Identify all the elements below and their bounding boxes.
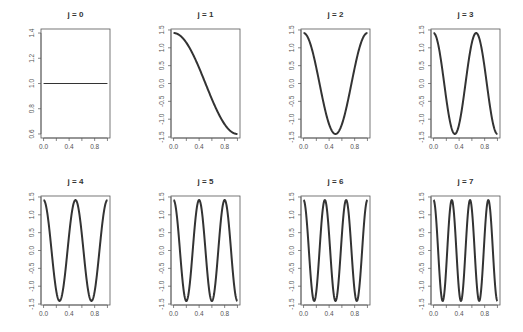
y-tick-label: 1.0 xyxy=(288,43,295,52)
x-tick-label: 0.4 xyxy=(65,143,74,150)
y-tick-label: -1.0 xyxy=(158,280,165,292)
y-tick-label: 1.0 xyxy=(418,210,425,219)
y-tick-label: -1.5 xyxy=(28,298,35,310)
x-tick-label: 0.8 xyxy=(220,143,229,150)
y-axis: -1.5-1.0-0.50.00.51.01.5 xyxy=(418,25,431,143)
basis-curve xyxy=(434,200,498,301)
y-axis: -1.5-1.0-0.50.00.51.01.5 xyxy=(418,192,431,310)
x-axis: 0.00.40.8 xyxy=(39,138,107,150)
cosine-basis-figure: j = 00.00.40.80.60.81.01.21.4j = 10.00.4… xyxy=(0,0,523,332)
y-tick-label: 0.5 xyxy=(288,228,295,237)
panel-title: j = 2 xyxy=(327,10,344,19)
x-axis: 0.00.40.8 xyxy=(299,305,367,317)
x-tick-label: 0.0 xyxy=(39,143,48,150)
x-tick-label: 0.4 xyxy=(455,310,464,317)
panel-title: j = 5 xyxy=(197,177,214,186)
panel-title: j = 0 xyxy=(67,10,84,19)
plot-panel-j6: j = 60.00.40.8-1.5-1.0-0.50.00.51.01.5 xyxy=(288,177,370,317)
panel-title: j = 7 xyxy=(457,177,474,186)
y-tick-label: -1.0 xyxy=(418,113,425,125)
y-tick-label: -1.5 xyxy=(288,131,295,143)
x-tick-label: 0.4 xyxy=(325,143,334,150)
x-axis: 0.00.40.8 xyxy=(429,138,497,150)
plot-panel-j5: j = 50.00.40.8-1.5-1.0-0.50.00.51.01.5 xyxy=(158,177,240,317)
y-tick-label: -0.5 xyxy=(288,262,295,274)
y-tick-label: 1.0 xyxy=(158,43,165,52)
x-tick-label: 0.0 xyxy=(39,310,48,317)
y-tick-label: 0.0 xyxy=(158,79,165,88)
y-tick-label: 0.5 xyxy=(418,61,425,70)
y-tick-label: -1.0 xyxy=(28,280,35,292)
x-tick-label: 0.4 xyxy=(325,310,334,317)
x-tick-label: 0.4 xyxy=(65,310,74,317)
panel-title: j = 6 xyxy=(327,177,344,186)
y-tick-label: 0.0 xyxy=(418,246,425,255)
x-tick-label: 0.8 xyxy=(90,143,99,150)
x-axis: 0.00.40.8 xyxy=(429,305,497,317)
y-axis: -1.5-1.0-0.50.00.51.01.5 xyxy=(288,25,301,143)
x-tick-label: 0.8 xyxy=(220,310,229,317)
y-tick-label: -0.5 xyxy=(28,262,35,274)
x-tick-label: 0.0 xyxy=(429,143,438,150)
x-tick-label: 0.0 xyxy=(299,143,308,150)
basis-curve xyxy=(174,33,238,134)
y-tick-label: -1.5 xyxy=(418,131,425,143)
y-tick-label: -1.5 xyxy=(158,298,165,310)
y-tick-label: 1.5 xyxy=(418,192,425,201)
plot-panel-j3: j = 30.00.40.8-1.5-1.0-0.50.00.51.01.5 xyxy=(418,10,500,150)
y-tick-label: -1.5 xyxy=(418,298,425,310)
plot-panel-j0: j = 00.00.40.80.60.81.01.21.4 xyxy=(28,10,110,150)
x-tick-label: 0.8 xyxy=(480,143,489,150)
y-tick-label: -0.5 xyxy=(288,95,295,107)
y-tick-label: 0.5 xyxy=(158,228,165,237)
y-tick-label: 1.5 xyxy=(158,192,165,201)
y-axis: -1.5-1.0-0.50.00.51.01.5 xyxy=(28,192,41,310)
y-axis: 0.60.81.01.21.4 xyxy=(28,28,41,138)
y-tick-label: 0.0 xyxy=(158,246,165,255)
basis-curve xyxy=(174,200,238,301)
y-tick-label: 1.4 xyxy=(28,28,35,37)
y-tick-label: 0.5 xyxy=(288,61,295,70)
y-tick-label: -0.5 xyxy=(418,95,425,107)
y-tick-label: 1.0 xyxy=(288,210,295,219)
basis-curve xyxy=(304,33,368,134)
y-tick-label: 0.6 xyxy=(28,129,35,138)
y-tick-label: 1.5 xyxy=(28,192,35,201)
y-axis: -1.5-1.0-0.50.00.51.01.5 xyxy=(288,192,301,310)
plot-panel-j1: j = 10.00.40.8-1.5-1.0-0.50.00.51.01.5 xyxy=(158,10,240,150)
y-tick-label: 0.0 xyxy=(418,79,425,88)
y-tick-label: 1.0 xyxy=(158,210,165,219)
x-tick-label: 0.0 xyxy=(429,310,438,317)
y-tick-label: 0.5 xyxy=(158,61,165,70)
y-tick-label: 1.5 xyxy=(288,192,295,201)
x-tick-label: 0.4 xyxy=(195,310,204,317)
y-tick-label: -1.5 xyxy=(288,298,295,310)
x-tick-label: 0.8 xyxy=(350,143,359,150)
y-tick-label: 1.0 xyxy=(418,43,425,52)
y-tick-label: 0.5 xyxy=(28,228,35,237)
y-tick-label: 1.0 xyxy=(28,210,35,219)
basis-curve xyxy=(44,200,108,301)
y-tick-label: 0.8 xyxy=(28,104,35,113)
y-tick-label: 1.5 xyxy=(158,25,165,34)
basis-curve xyxy=(304,200,368,301)
y-tick-label: -0.5 xyxy=(158,95,165,107)
plot-grid: j = 00.00.40.80.60.81.01.21.4j = 10.00.4… xyxy=(0,0,523,332)
x-tick-label: 0.4 xyxy=(195,143,204,150)
y-tick-label: 0.0 xyxy=(288,246,295,255)
y-tick-label: -1.0 xyxy=(418,280,425,292)
y-tick-label: 1.2 xyxy=(28,53,35,62)
y-axis: -1.5-1.0-0.50.00.51.01.5 xyxy=(158,25,171,143)
y-tick-label: 1.5 xyxy=(418,25,425,34)
y-tick-label: 0.0 xyxy=(28,246,35,255)
y-tick-label: 1.0 xyxy=(28,79,35,88)
x-axis: 0.00.40.8 xyxy=(169,138,237,150)
y-tick-label: 1.5 xyxy=(288,25,295,34)
x-tick-label: 0.0 xyxy=(169,143,178,150)
x-axis: 0.00.40.8 xyxy=(169,305,237,317)
panel-title: j = 4 xyxy=(67,177,84,186)
plot-panel-j2: j = 20.00.40.8-1.5-1.0-0.50.00.51.01.5 xyxy=(288,10,370,150)
y-tick-label: -1.0 xyxy=(158,113,165,125)
y-tick-label: -0.5 xyxy=(158,262,165,274)
x-axis: 0.00.40.8 xyxy=(39,305,107,317)
